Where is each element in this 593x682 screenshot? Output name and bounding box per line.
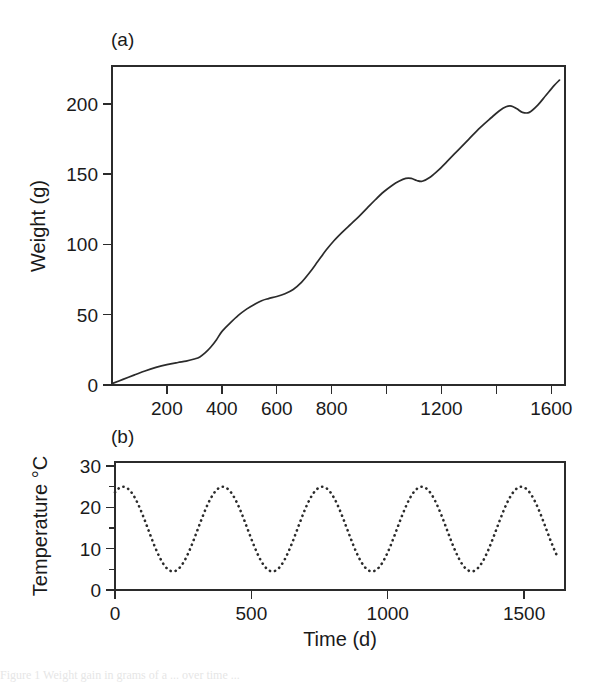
x-tick-label: 0 <box>110 603 121 624</box>
panel-a: (a) 050100150200 20040060080012001600 We… <box>27 29 572 419</box>
y-tick-label: 30 <box>80 456 101 477</box>
y-tick-label: 150 <box>66 164 98 185</box>
temperature-seasonal-curve <box>115 487 558 572</box>
x-tick-label: 1000 <box>367 603 409 624</box>
panel-a-y-axis-title: Weight (g) <box>27 180 49 272</box>
panel-a-label: (a) <box>111 29 134 50</box>
panel-b-x-axis-title: Time (d) <box>303 628 377 650</box>
panel-b-label: (b) <box>111 426 134 447</box>
y-tick-label: 200 <box>66 94 98 115</box>
panel-b-y-tick-labels: 0102030 <box>80 456 101 601</box>
figure-caption: Figure 1 Weight gain in grams of a ... o… <box>0 668 593 682</box>
x-tick-label: 1500 <box>503 603 545 624</box>
panel-b-x-ticks <box>115 590 524 599</box>
panel-b-y-axis-title: Temperature °C <box>29 456 51 596</box>
x-tick-label: 800 <box>316 398 348 419</box>
y-tick-label: 50 <box>77 305 98 326</box>
y-tick-label: 0 <box>90 580 101 601</box>
x-tick-label: 400 <box>206 398 238 419</box>
panel-a-x-ticks <box>167 385 551 394</box>
panel-b: (b) 0102030 050010001500 Temperature °C … <box>29 426 565 650</box>
panel-a-plot-frame <box>112 66 565 385</box>
panel-a-y-tick-labels: 050100150200 <box>66 94 98 396</box>
x-tick-label: 600 <box>261 398 293 419</box>
panel-b-x-tick-labels: 050010001500 <box>110 603 546 624</box>
y-tick-label: 100 <box>66 234 98 255</box>
y-tick-label: 0 <box>87 375 98 396</box>
panel-a-x-tick-labels: 20040060080012001600 <box>151 398 572 419</box>
y-tick-label: 10 <box>80 539 101 560</box>
x-tick-label: 1600 <box>530 398 572 419</box>
panel-a-y-ticks <box>103 104 112 385</box>
weight-growth-curve <box>112 80 560 384</box>
y-tick-label: 20 <box>80 497 101 518</box>
figure-svg: (a) 050100150200 20040060080012001600 We… <box>0 0 593 682</box>
x-tick-label: 500 <box>236 603 268 624</box>
x-tick-label: 200 <box>151 398 183 419</box>
x-tick-label: 1200 <box>420 398 462 419</box>
figure-container: (a) 050100150200 20040060080012001600 We… <box>0 0 593 682</box>
panel-b-y-ticks <box>106 466 115 590</box>
